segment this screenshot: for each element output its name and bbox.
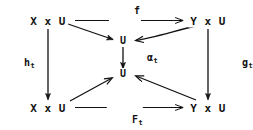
edge-label-alpha-t: αt — [122, 43, 158, 73]
edge-label-F-t: Ft — [107, 105, 143, 130]
edge-label-f-base: f — [134, 5, 140, 16]
edge-label-F-base: F — [132, 114, 138, 125]
node-top-right: Y x U — [188, 15, 228, 28]
edge-label-h-sub: t — [30, 62, 34, 70]
arrow-bottomleft-to-lower-u — [70, 78, 112, 101]
arrow-bottomright-to-lower-u — [136, 76, 196, 100]
commutative-diagram: X x U Y x U U U X x U Y x U f ht gt αt F… — [0, 0, 253, 130]
node-top-left: X x U — [28, 15, 68, 28]
edge-label-g-sub: t — [248, 62, 252, 70]
edge-label-f: f — [109, 0, 141, 26]
node-bottom-right: Y x U — [188, 102, 228, 115]
edge-label-g-t: gt — [217, 48, 253, 78]
edge-label-g-base: g — [242, 57, 248, 68]
node-bottom-left: X x U — [28, 102, 68, 115]
edge-label-h-t: ht — [0, 48, 35, 78]
edge-label-alpha-sub: t — [153, 57, 157, 65]
arrow-topright-to-upper-u — [136, 26, 196, 41]
edge-label-F-sub: t — [138, 119, 142, 127]
edge-label-alpha-base: α — [147, 52, 153, 63]
edge-label-h-base: h — [24, 57, 30, 68]
arrow-topleft-to-upper-u — [68, 24, 113, 40]
